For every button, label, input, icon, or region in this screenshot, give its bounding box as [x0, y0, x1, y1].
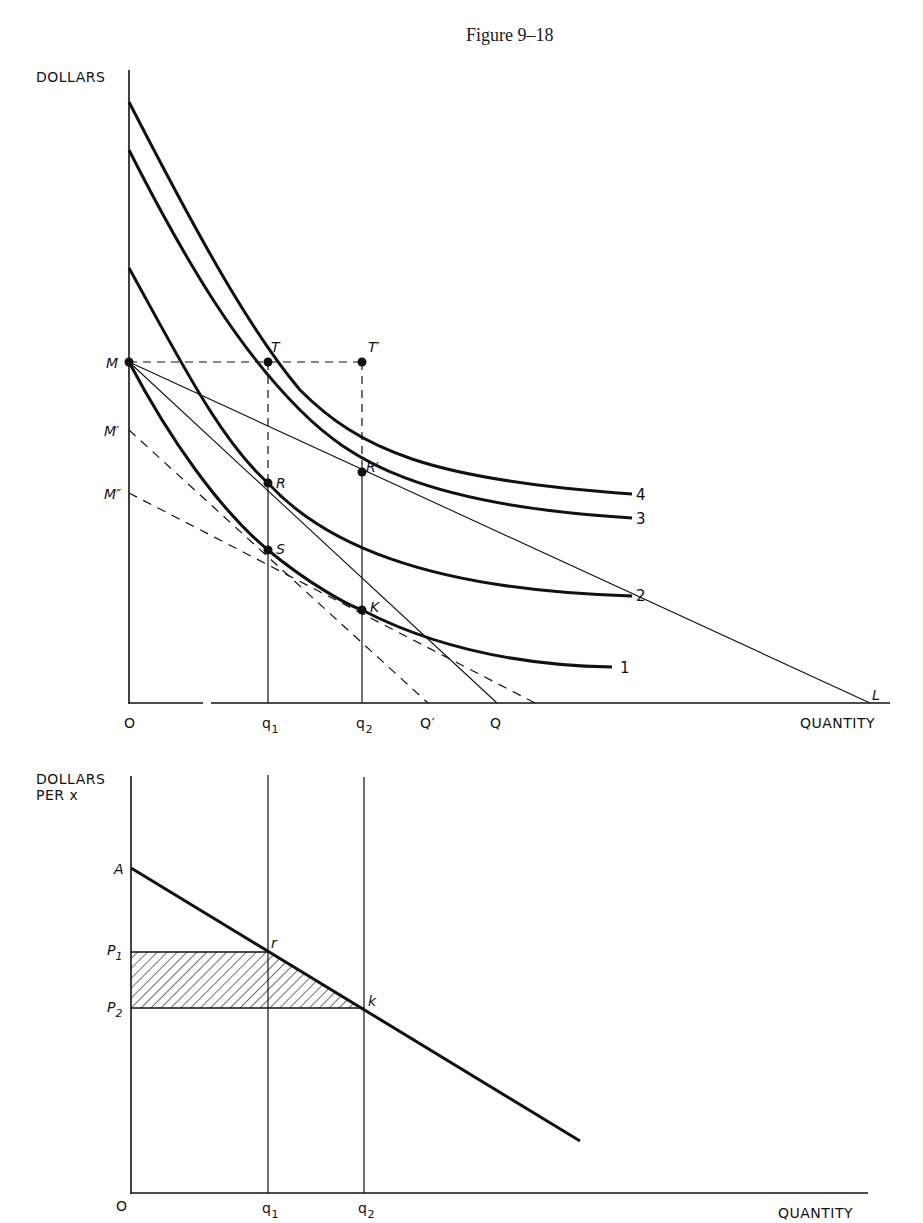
tick-q: Q: [490, 715, 502, 731]
upper-x-axis-label: QUANTITY: [800, 715, 875, 731]
label-r: R: [276, 475, 286, 491]
lower-origin-label: O: [116, 1198, 128, 1214]
tick-q-prime: Q′: [420, 715, 435, 731]
point-s: [264, 546, 273, 555]
indifference-curve-4: [129, 102, 632, 494]
lower-x-axis-label: QUANTITY: [778, 1205, 853, 1221]
upper-chart: DOLLARS QUANTITY O M: [36, 69, 890, 736]
label-r-lower: r: [271, 935, 278, 951]
label-m-prime: M′: [104, 423, 120, 439]
label-m: M: [106, 355, 118, 371]
upper-y-axis-label: DOLLARS: [36, 69, 105, 85]
label-k-lower: k: [368, 993, 377, 1009]
figure-9-18: Figure 9–18 DOLLARS QUANTITY O: [0, 0, 923, 1223]
curve-label-4: 4: [636, 486, 646, 504]
label-k: K: [370, 599, 381, 615]
lower-y-axis-label-2: PER x: [36, 787, 78, 803]
point-t: [264, 358, 273, 367]
tick-q2: q2: [356, 715, 373, 736]
dashed-line-m1-q1: [129, 430, 428, 703]
label-a: A: [113, 861, 124, 877]
label-s: S: [276, 541, 285, 557]
indifference-curve-3: [129, 150, 632, 518]
budget-line-ml: [129, 362, 870, 703]
point-k: [358, 606, 367, 615]
curve-label-1: 1: [620, 659, 630, 677]
label-r-prime: R′: [366, 459, 380, 475]
upper-origin-label: O: [124, 715, 136, 731]
tick-q1: q1: [262, 715, 279, 736]
consumer-surplus-area: [131, 952, 364, 1008]
point-t-prime: [358, 358, 367, 367]
tick-l: L: [872, 687, 880, 703]
lower-y-axis-label-1: DOLLARS: [36, 771, 105, 787]
label-t-prime: T′: [368, 339, 381, 355]
label-m-double-prime: M″: [104, 486, 122, 502]
point-r: [264, 479, 273, 488]
point-m: [125, 358, 134, 367]
lower-tick-q2: q2: [358, 1200, 375, 1221]
indifference-curve-1: [129, 362, 612, 667]
curve-label-2: 2: [636, 587, 646, 605]
figure-title: Figure 9–18: [466, 25, 554, 45]
label-t: T: [271, 339, 281, 355]
label-p2: P2: [107, 999, 122, 1020]
label-p1: P1: [107, 942, 122, 963]
curve-label-3: 3: [636, 510, 646, 528]
budget-line-mq: [129, 362, 497, 703]
lower-chart: DOLLARS PER x QUANTITY O A P1 P2 r k q1 …: [36, 771, 868, 1221]
lower-tick-q1: q1: [262, 1200, 279, 1221]
dashed-line-m2: [129, 493, 535, 703]
